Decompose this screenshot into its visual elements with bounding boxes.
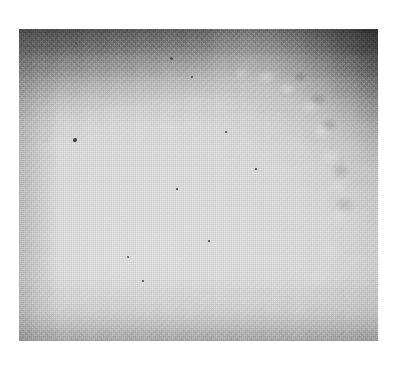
mammogram-image — [19, 29, 378, 341]
image-speck — [255, 168, 257, 170]
image-speck — [225, 131, 227, 133]
image-speck — [170, 57, 173, 60]
image-speck — [142, 280, 144, 282]
image-speck — [73, 138, 76, 141]
plate-vignette — [19, 29, 378, 341]
breast-tissue-region — [19, 29, 378, 341]
image-speck — [191, 76, 193, 78]
halftone-dither-texture — [19, 29, 378, 341]
air-background-region — [19, 29, 378, 341]
image-speck — [208, 240, 210, 242]
image-speck — [127, 256, 129, 258]
speck-overlay — [19, 29, 378, 341]
page-canvas — [0, 0, 396, 368]
scan-block-texture — [19, 29, 378, 341]
image-speck — [75, 42, 77, 44]
image-speck — [176, 188, 178, 190]
film-grain-texture — [19, 29, 378, 341]
chest-wall-band — [19, 29, 378, 341]
skin-line-nodular-edge — [19, 29, 378, 341]
